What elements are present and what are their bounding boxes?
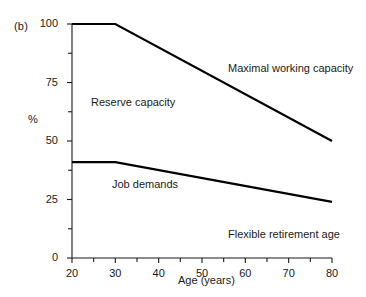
x-tick-label: 30 xyxy=(100,267,130,279)
x-tick-label: 20 xyxy=(57,267,87,279)
y-tick-label: 50 xyxy=(28,134,58,146)
series-line-job-demands xyxy=(72,162,332,202)
x-tick-label: 70 xyxy=(274,267,304,279)
panel-label: (b) xyxy=(14,20,28,32)
annotation-flexible-retirement-age: Flexible retirement age xyxy=(228,228,340,240)
x-tick-label: 80 xyxy=(317,267,347,279)
y-tick-label: 75 xyxy=(28,76,58,88)
annotation-job-demands: Job demands xyxy=(112,178,178,190)
x-tick-label: 60 xyxy=(230,267,260,279)
y-tick-label: 25 xyxy=(28,193,58,205)
x-tick-label: 40 xyxy=(144,267,174,279)
y-axis-title: % xyxy=(28,113,38,125)
x-tick-label: 50 xyxy=(187,267,217,279)
figure-panel-b: (b) % Age (years) 0255075100203040506070… xyxy=(0,0,366,297)
data-series xyxy=(72,24,332,202)
y-tick-label: 100 xyxy=(28,17,58,29)
series-line-maximal-working-capacity xyxy=(72,24,332,141)
y-tick-label: 0 xyxy=(28,251,58,263)
annotation-maximal-working-capacity: Maximal working capacity xyxy=(228,62,353,74)
annotation-reserve-capacity: Reserve capacity xyxy=(91,96,175,108)
